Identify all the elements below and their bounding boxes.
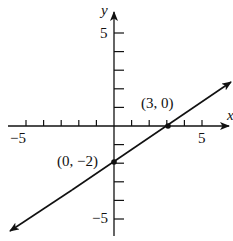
graph-line-lower (10, 190, 72, 231)
y-axis-label: y (101, 3, 108, 18)
x-axis-label: x (227, 108, 233, 123)
y-tick-label-5: 5 (100, 26, 108, 41)
point-label-3-0: (3, 0) (141, 96, 174, 111)
x-tick-label-5: 5 (198, 131, 206, 146)
point-label-0-neg2: (0, −2) (57, 154, 98, 169)
point-3-0 (165, 123, 171, 129)
coordinate-plane (0, 0, 233, 241)
y-tick-label-neg5: −5 (92, 211, 108, 226)
x-tick-label-neg5: −5 (10, 131, 26, 146)
point-0-neg2 (111, 159, 117, 165)
